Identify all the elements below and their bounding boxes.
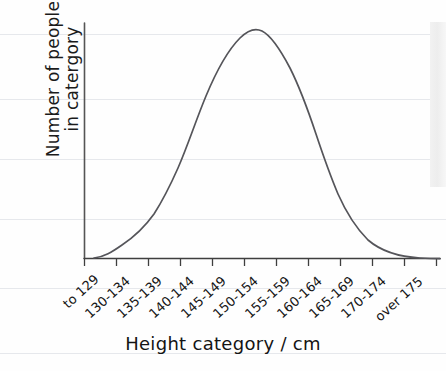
frequency-curve-line <box>94 30 440 259</box>
x-axis-title: Height category / cm <box>0 333 446 354</box>
scanned-chart-page: Number of people in catergory to 129 130… <box>0 0 446 371</box>
frequency-curve-plot <box>0 0 446 371</box>
